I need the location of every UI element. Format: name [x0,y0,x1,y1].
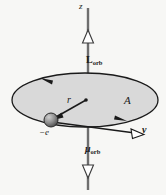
angular-momentum-subscript: orb [93,59,103,66]
magnetic-moment-label: μorb [85,144,100,154]
radius-label: r [67,95,71,105]
physics-diagram-orbital-magnetic-moment: z Lorb μorb r A −e v [0,0,166,195]
angular-momentum-label: Lorb [86,55,102,65]
velocity-label: v [142,125,146,135]
area-label: A [124,95,131,106]
magnetic-moment-subscript: orb [91,148,101,155]
diagram-canvas [0,0,166,195]
orbit-center-dot [84,98,88,102]
magnetic-moment-symbol: μ [85,143,91,154]
electron-sphere [44,113,58,127]
charge-label: −e [39,128,49,137]
angular-momentum-symbol: L [86,54,93,65]
z-axis-label: z [79,2,83,11]
